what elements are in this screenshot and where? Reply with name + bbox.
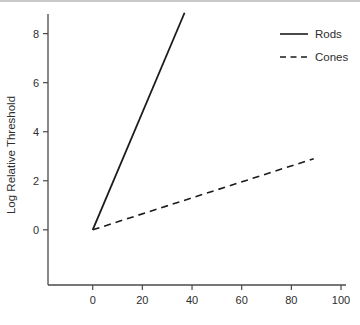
- data-series: [93, 13, 314, 230]
- x-tick-label: 100: [332, 294, 350, 306]
- y-tick-label: 0: [33, 224, 39, 236]
- legend: RodsCones: [280, 28, 348, 63]
- x-tick-label: 60: [236, 294, 248, 306]
- x-tick-label: 0: [90, 294, 96, 306]
- y-tick-label: 2: [33, 175, 39, 187]
- line-chart: 02040608010002468 RodsCones Log Relative…: [0, 0, 360, 325]
- y-axis-title: Log Relative Threshold: [5, 96, 17, 214]
- y-tick-label: 8: [33, 28, 39, 40]
- y-tick-label: 4: [33, 126, 39, 138]
- x-tick-label: 40: [186, 294, 198, 306]
- legend-label-cones: Cones: [315, 51, 348, 63]
- legend-label-rods: Rods: [315, 28, 342, 40]
- figure-canvas: 02040608010002468 RodsCones Log Relative…: [0, 0, 360, 325]
- y-tick-label: 6: [33, 77, 39, 89]
- x-tick-label: 20: [136, 294, 148, 306]
- scan-border-top: [0, 0, 360, 2]
- series-line-cones: [93, 159, 314, 230]
- series-line-rods: [93, 13, 185, 230]
- x-tick-label: 80: [285, 294, 297, 306]
- axis-ticks: 02040608010002468: [33, 28, 350, 306]
